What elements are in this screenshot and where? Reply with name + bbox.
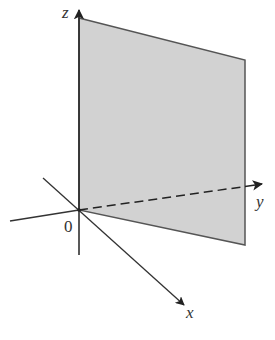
z-axis-label: z	[61, 3, 69, 22]
coordinate-plane-diagram: z 0 y x	[0, 0, 275, 340]
y-axis-label: y	[254, 192, 264, 211]
shaded-plane	[79, 18, 245, 245]
y-axis-arrow	[245, 184, 262, 187]
origin-label: 0	[64, 217, 73, 236]
origin-point	[77, 208, 81, 212]
x-axis-label: x	[185, 303, 194, 322]
